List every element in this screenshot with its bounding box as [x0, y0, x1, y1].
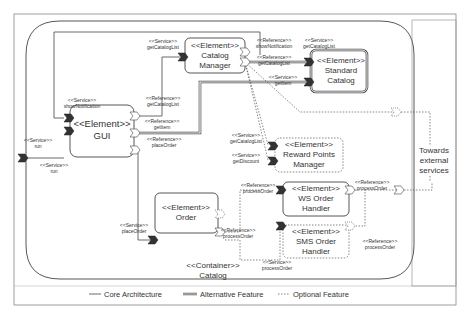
port-label: <<Service>>getCatalogList — [230, 133, 262, 144]
external-text: services — [419, 166, 449, 176]
standard-catalog-label: <<Element>> Standard Catalog — [317, 56, 365, 86]
stereotype: <<Element>> — [73, 118, 130, 130]
port-label: <<Reference>>processOrder — [221, 228, 256, 239]
port-label: <<Reference>>getItem — [145, 119, 180, 130]
element-name: Manager — [283, 160, 335, 170]
stereotype: <<Element>> — [162, 203, 210, 213]
legend-core-label: Core Architecture — [104, 290, 162, 299]
element-name: WS Order — [292, 194, 340, 204]
port-label: <<Reference>>getCatalogList — [146, 96, 181, 107]
external-text: external — [419, 156, 449, 166]
ws-order-label: <<Element>> WS Order Handler — [292, 184, 340, 214]
reward-points-label: <<Element>> Reward Points Manager — [283, 140, 335, 170]
element-name: Handler — [292, 204, 340, 214]
stereotype: <<Element>> — [292, 227, 340, 237]
stereotype: <<Element>> — [292, 184, 340, 194]
stereotype: <<Element>> — [191, 41, 239, 51]
element-name: Handler — [292, 247, 340, 257]
port-label: <<Service>>getItem — [269, 75, 297, 86]
port-label: <<Service>>showNotification — [64, 98, 100, 109]
port-label: <<Service>>getDiscount — [232, 153, 260, 164]
gui-label: <<Element>> GUI — [73, 118, 130, 142]
port-label: <<Reference>>processOrder — [241, 183, 276, 194]
element-name: Manager — [191, 61, 239, 71]
port-label: <<Service>>run — [24, 138, 52, 149]
catalog-manager-label: <<Element>> Catalog Manager — [191, 41, 239, 71]
external-services-label: Towards external services — [419, 146, 449, 176]
port-label: <<Reference>>processOrder — [355, 180, 390, 191]
legend-optional-label: Optional Feature — [293, 290, 349, 299]
element-name: GUI — [73, 130, 130, 142]
external-text: Towards — [419, 146, 449, 156]
order-label: <<Element>> Order — [162, 203, 210, 223]
element-name: Order — [162, 213, 210, 223]
element-name: Catalog — [191, 51, 239, 61]
port-label: <<Reference>>getCatalogList — [257, 55, 292, 66]
port-label: <<Service>>getCatalogList — [303, 38, 335, 49]
element-name: Catalog — [317, 76, 365, 86]
stereotype: <<Container>> — [186, 261, 239, 271]
element-name: Standard — [317, 66, 365, 76]
port-label: <<Reference>>placeOrder — [147, 137, 182, 148]
port-label: <<Service>>getCatalogList — [147, 39, 179, 50]
port-label: <<Reference>>processOrder — [363, 239, 398, 250]
stereotype: <<Element>> — [283, 140, 335, 150]
port-reference-optional-icon — [391, 108, 401, 116]
container-label: <<Container>> Catalog — [186, 261, 239, 281]
port-label: <<Service>>run — [40, 163, 68, 174]
element-name: Reward Points — [283, 150, 335, 160]
legend-alternative-label: Alternative Feature — [200, 290, 263, 299]
port-service-icon — [18, 154, 28, 162]
sms-order-label: <<Element>> SMS Order Handler — [292, 227, 340, 257]
element-name: SMS Order — [292, 237, 340, 247]
port-label: <<Reference>>showNotification — [256, 38, 292, 49]
port-label: <<Service>>processOrder — [262, 260, 292, 271]
stereotype: <<Element>> — [317, 56, 365, 66]
port-label: <<Service>>placeOrder — [120, 223, 148, 234]
container-name: Catalog — [186, 271, 239, 281]
